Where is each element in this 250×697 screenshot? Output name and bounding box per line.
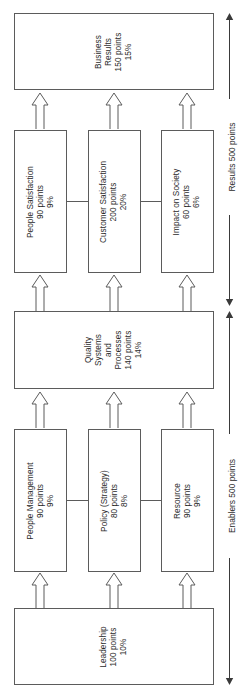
arrow-people-satisfaction-to-business-results [31,92,49,129]
span-label-results: Results 500 points [227,99,237,215]
box-people-satisfaction-text: People Satisfaction 90 points 9% [26,166,56,238]
connector-people-to-customer-satisfaction [67,201,88,202]
box-people-management: People Management 90 points 9% [14,429,67,572]
box-people-management-text: People Management 90 points 9% [26,462,56,539]
box-customer-satisfaction-text: Customer Satisfaction 200 points 20% [100,160,130,242]
arrow-quality-systems-to-impact-on-society [178,274,196,311]
box-impact-on-society: Impact on Society 60 points 6% [161,130,214,273]
box-policy-strategy-text: Policy (Strategy) 80 points 8% [100,470,130,532]
arrow-policy-strategy-to-quality-systems [105,391,123,428]
arrow-leadership-to-resource [178,572,196,609]
box-impact-on-society-text: Impact on Society 60 points 6% [173,168,203,235]
box-resource: Resource 90 points 9% [161,429,214,572]
box-quality-systems-and-processes: Quality Systems and Processes 140 points… [14,311,214,389]
arrow-people-management-to-quality-systems [31,391,49,428]
arrow-quality-systems-to-people-satisfaction [31,274,49,311]
span-label-enablers: Enablers 500 points [227,434,237,558]
connector-policy-strategy-to-resource [141,500,161,501]
connector-people-management-to-policy-strategy [67,500,88,501]
box-business-results: Business Results 150 points 15% [14,13,214,90]
box-customer-satisfaction: Customer Satisfaction 200 points 20% [88,130,141,273]
box-policy-strategy: Policy (Strategy) 80 points 8% [88,429,141,572]
arrow-leadership-to-people-management [31,572,49,609]
connector-customer-satisfaction-to-impact [141,201,161,202]
arrow-resource-to-quality-systems [178,391,196,428]
box-resource-text: Resource 90 points 9% [173,483,203,519]
arrow-leadership-to-policy-strategy [105,572,123,609]
arrow-impact-on-society-to-business-results [178,92,196,129]
box-quality-systems-and-processes-text: Quality Systems and Processes 140 points… [84,330,144,369]
box-business-results-text: Business Results 150 points 15% [94,32,134,71]
box-leadership: Leadership 100 points 10% [14,608,214,685]
box-leadership-text: Leadership 100 points 10% [99,626,129,668]
box-people-satisfaction: People Satisfaction 90 points 9% [14,130,67,273]
efqm-excellence-model-diagram: Business Results 150 points 15% People S… [0,0,250,697]
arrow-quality-systems-to-customer-satisfaction [105,274,123,311]
arrow-customer-satisfaction-to-business-results [105,92,123,129]
